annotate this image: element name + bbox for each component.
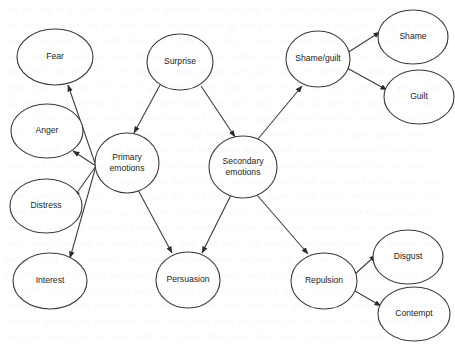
edge-secondary-to-repulsion	[257, 195, 308, 254]
node-shape-interest	[13, 253, 87, 309]
edge-repulsion-to-contempt	[355, 291, 381, 306]
node-contempt[interactable]: Contempt	[378, 287, 450, 341]
node-shape-shameguilt	[286, 31, 350, 87]
node-shape-secondary	[209, 136, 277, 198]
node-shape-surprise	[147, 34, 213, 90]
nodes-layer: FearAngerDistressInterestPrimaryemotions…	[10, 10, 454, 341]
node-shape-fear	[17, 29, 93, 85]
edge-shameguilt-to-shame	[347, 32, 380, 53]
node-surprise[interactable]: Surprise	[147, 34, 213, 90]
edge-secondary-to-persuasion	[202, 195, 231, 253]
node-shape-persuasion	[156, 252, 220, 308]
diagram-canvas: the the and of a to in that it was for o…	[0, 0, 455, 346]
diagram-svg: FearAngerDistressInterestPrimaryemotions…	[0, 0, 455, 346]
node-shape-shame	[378, 10, 448, 64]
edge-surprise-to-primary	[134, 85, 160, 133]
node-repulsion[interactable]: Repulsion	[291, 253, 357, 309]
node-shame[interactable]: Shame	[378, 10, 448, 64]
node-shape-anger	[11, 104, 83, 158]
node-anger[interactable]: Anger	[11, 104, 83, 158]
node-distress[interactable]: Distress	[10, 179, 82, 233]
node-disgust[interactable]: Disgust	[373, 230, 443, 284]
node-persuasion[interactable]: Persuasion	[156, 252, 220, 308]
node-shape-guilt	[384, 70, 454, 124]
edge-shameguilt-to-guilt	[347, 68, 387, 90]
node-guilt[interactable]: Guilt	[384, 70, 454, 124]
edge-primary-to-anger	[73, 151, 96, 166]
edge-secondary-to-shameguilt	[258, 86, 302, 139]
node-secondary[interactable]: Secondaryemotions	[209, 136, 277, 198]
node-shape-primary	[95, 133, 159, 193]
node-shape-repulsion	[291, 253, 357, 309]
node-shape-distress	[10, 179, 82, 233]
node-shape-contempt	[378, 287, 450, 341]
edge-surprise-to-secondary	[201, 86, 235, 137]
node-shameguilt[interactable]: Shame/guilt	[286, 31, 350, 87]
node-primary[interactable]: Primaryemotions	[95, 133, 159, 193]
node-shape-disgust	[373, 230, 443, 284]
node-fear[interactable]: Fear	[17, 29, 93, 85]
edge-primary-to-persuasion	[138, 190, 172, 253]
node-interest[interactable]: Interest	[13, 253, 87, 309]
